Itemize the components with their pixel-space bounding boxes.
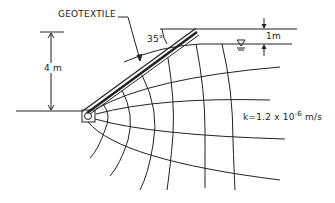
flow-line [95, 119, 285, 139]
water-depth-label: 1m [266, 31, 281, 41]
angle-label: 35° [147, 34, 164, 44]
equipotential-line [167, 58, 173, 190]
flow-net-diagram [0, 0, 335, 203]
geotextile-underline [90, 35, 199, 114]
flow-line [88, 122, 280, 180]
equipotential-line [140, 75, 155, 190]
geotextile-label: GEOTEXTILE [58, 9, 116, 19]
geotextile-leader [118, 17, 140, 60]
phreatic-line [124, 44, 292, 62]
permeability-label: k=1.2 x 10-6 m/s [243, 110, 322, 122]
height-label: 4 m [44, 63, 62, 73]
equipotential-line [222, 44, 235, 190]
slope-line [84, 29, 195, 110]
equipotential-line [110, 90, 130, 176]
flow-line [96, 67, 280, 109]
water-table-symbol-icon [237, 40, 245, 46]
